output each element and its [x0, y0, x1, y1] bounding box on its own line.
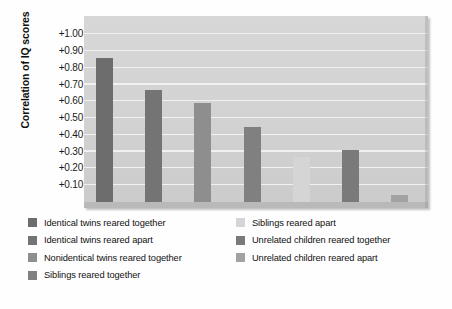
legend-item-label: Siblings reared together	[44, 270, 140, 280]
legend-swatch-icon	[28, 218, 37, 227]
legend-item: Unrelated children reared apart	[236, 249, 451, 267]
y-axis-tick-label: +0.50	[40, 113, 83, 123]
legend-item-label: Identical twins reared apart	[44, 235, 153, 245]
bar	[342, 150, 359, 202]
axis-baseline	[84, 202, 428, 208]
legend-item: Identical twins reared apart	[28, 232, 233, 250]
y-axis-tick-label: +0.10	[40, 180, 83, 190]
panel-edge-shadow	[425, 16, 428, 208]
y-axis-tick-label: +0.90	[40, 46, 83, 56]
bar	[194, 103, 211, 202]
legend-swatch-icon	[28, 253, 37, 262]
plot-panel	[84, 16, 428, 208]
bar	[293, 157, 310, 202]
legend-item-label: Unrelated children reared apart	[252, 253, 378, 263]
legend-swatch-icon	[236, 236, 245, 245]
y-axis-tick-label: +0.30	[40, 147, 83, 157]
bar-chart: Correlation of IQ scores +1.00+0.90+0.80…	[0, 0, 452, 212]
legend-item-label: Unrelated children reared together	[252, 235, 390, 245]
legend-item-label: Siblings reared apart	[252, 218, 336, 228]
y-axis-tick-label: +1.00	[40, 29, 83, 39]
legend: Identical twins reared togetherIdentical…	[0, 214, 452, 309]
y-axis-tick-label: +0.70	[40, 80, 83, 90]
legend-item: Siblings reared apart	[236, 214, 451, 232]
legend-item: Nonidentical twins reared together	[28, 249, 233, 267]
legend-swatch-icon	[28, 271, 37, 280]
figure-root: Correlation of IQ scores +1.00+0.90+0.80…	[0, 0, 452, 309]
legend-swatch-icon	[236, 218, 245, 227]
legend-item: Siblings reared together	[28, 267, 233, 285]
legend-item: Unrelated children reared together	[236, 232, 451, 250]
bar	[96, 58, 113, 202]
bar	[244, 127, 261, 202]
legend-item-label: Identical twins reared together	[44, 218, 165, 228]
bars-layer	[84, 16, 428, 208]
y-axis-tick-label: +0.80	[40, 63, 83, 73]
y-axis-tick-label: +0.20	[40, 163, 83, 173]
bar	[145, 90, 162, 202]
y-axis-tick-label: +0.60	[40, 96, 83, 106]
y-axis-title: Correlation of IQ scores	[19, 5, 35, 135]
y-axis-tick-labels: +1.00+0.90+0.80+0.70+0.60+0.50+0.40+0.30…	[40, 14, 83, 204]
legend-column-left: Identical twins reared togetherIdentical…	[28, 214, 233, 284]
legend-item: Identical twins reared together	[28, 214, 233, 232]
legend-swatch-icon	[236, 253, 245, 262]
bar	[391, 195, 408, 202]
y-axis-tick-label: +0.40	[40, 130, 83, 140]
legend-swatch-icon	[28, 236, 37, 245]
legend-column-right: Siblings reared apartUnrelated children …	[236, 214, 451, 267]
legend-item-label: Nonidentical twins reared together	[44, 253, 182, 263]
